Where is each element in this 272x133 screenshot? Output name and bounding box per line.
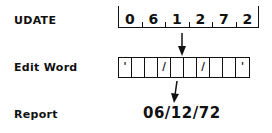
arrows-layer (0, 0, 272, 133)
down-arrow-icon (178, 33, 186, 56)
report-value: 06/12/72 (143, 104, 221, 122)
down-arrow-icon (171, 81, 179, 103)
